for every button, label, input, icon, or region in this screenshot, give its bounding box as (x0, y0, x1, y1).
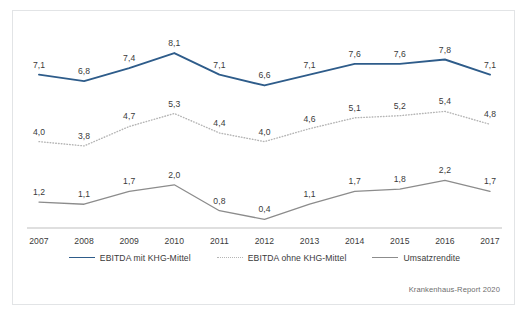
data-label: 7,6 (394, 49, 406, 59)
chart-figure: 7,16,87,48,17,16,67,17,67,67,87,14,03,84… (0, 0, 530, 324)
data-label: 7,1 (303, 60, 315, 70)
legend-label: Umsatzrendite (403, 253, 460, 263)
x-axis-tick-label: 2010 (165, 236, 185, 246)
data-label: 1,8 (394, 174, 406, 184)
data-label: 7,4 (123, 53, 135, 63)
x-axis-tick-label: 2015 (390, 236, 410, 246)
data-label: 5,2 (394, 101, 406, 111)
data-label: 6,8 (78, 66, 90, 76)
data-label: 2,0 (168, 170, 180, 180)
data-label: 1,2 (33, 187, 45, 197)
data-label: 7,8 (439, 45, 451, 55)
legend-swatch-icon (372, 254, 398, 262)
data-label: 4,6 (303, 114, 315, 124)
series-line-1 (39, 53, 490, 85)
legend-label: EBITDA ohne KHG-Mittel (248, 253, 347, 263)
x-axis-tick-label: 2008 (74, 236, 94, 246)
legend-swatch-icon (217, 254, 243, 262)
x-axis-tick-label: 2017 (480, 236, 500, 246)
data-label: 4,8 (484, 109, 496, 119)
data-label: 7,1 (213, 60, 225, 70)
data-label: 1,1 (78, 189, 90, 199)
data-label: 1,7 (484, 176, 496, 186)
data-label: 8,1 (168, 38, 180, 48)
x-axis-tick-label: 2014 (345, 236, 365, 246)
x-axis-tick-label: 2012 (255, 236, 275, 246)
x-axis-tick-label: 2009 (119, 236, 139, 246)
data-label: 4,4 (213, 118, 225, 128)
legend-entry-1[interactable]: EBITDA mit KHG-Mittel (69, 253, 191, 263)
x-axis-tick-label: 2007 (29, 236, 49, 246)
data-label: 0,8 (213, 196, 225, 206)
data-label: 7,1 (484, 60, 496, 70)
data-label: 5,4 (439, 96, 451, 106)
data-label: 1,7 (349, 176, 361, 186)
data-label: 1,1 (303, 189, 315, 199)
data-label: 0,4 (258, 204, 270, 214)
x-axis-tick-label: 2013 (300, 236, 320, 246)
data-label: 7,1 (33, 60, 45, 70)
data-label: 5,3 (168, 99, 180, 109)
data-label: 4,0 (33, 127, 45, 137)
legend-entry-3[interactable]: Umsatzrendite (372, 253, 460, 263)
data-label: 2,2 (439, 165, 451, 175)
chart-legend: EBITDA mit KHG-MittelEBITDA ohne KHG-Mit… (13, 253, 516, 263)
legend-swatch-icon (69, 254, 95, 262)
legend-label: EBITDA mit KHG-Mittel (100, 253, 191, 263)
legend-entry-2[interactable]: EBITDA ohne KHG-Mittel (217, 253, 347, 263)
data-label: 7,6 (349, 49, 361, 59)
data-label: 1,7 (123, 176, 135, 186)
x-axis-tick-label: 2016 (435, 236, 455, 246)
data-label: 4,7 (123, 111, 135, 121)
chart-frame: 7,16,87,48,17,16,67,17,67,67,87,14,03,84… (12, 10, 515, 305)
data-label: 6,6 (258, 70, 270, 80)
source-note: Krankenhaus-Report 2020 (409, 285, 500, 294)
data-label: 4,0 (258, 127, 270, 137)
x-axis-tick-label: 2011 (210, 236, 229, 246)
data-label: 5,1 (349, 103, 361, 113)
data-label: 3,8 (78, 131, 90, 141)
